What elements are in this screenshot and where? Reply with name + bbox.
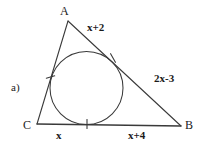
problem-item-label: a) [11, 82, 20, 93]
side-label-cb-right: x+4 [128, 130, 145, 141]
vertex-label-a: A [60, 5, 69, 17]
vertex-label-b: B [185, 119, 193, 131]
inscribed-circle [50, 52, 123, 125]
segment-ac [37, 21, 68, 124]
geometry-figure: A B C x+2 2x-3 x x+4 a) [0, 0, 204, 150]
side-label-ab-lower: 2x-3 [154, 73, 174, 84]
vertex-label-c: C [23, 119, 31, 131]
segment-cb [37, 124, 181, 126]
side-label-cb-left: x [56, 130, 62, 141]
side-label-ab-upper: x+2 [87, 22, 104, 33]
